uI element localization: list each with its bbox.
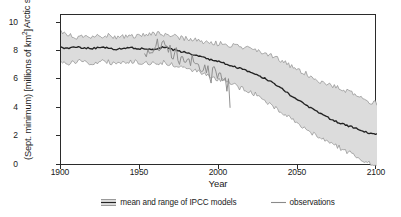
y-tick-label-10: 10	[0, 18, 18, 27]
y-axis-label-superscript: 2	[21, 32, 28, 35]
legend-entry-observations: observations	[271, 198, 335, 207]
y-tick-label-2: 2	[0, 131, 18, 140]
figure-arctic-sea-ice-extent: (Sept. minimum) [millions of km2] Arctic…	[0, 0, 401, 217]
chart-legend: mean and range of IPCC models observatio…	[60, 194, 376, 210]
x-tick-label-1950: 1950	[117, 168, 161, 177]
y-axis-label-line2: (Sept. minimum) [millions of km2]	[21, 29, 33, 160]
plot-area	[60, 14, 376, 165]
hatched-band-swatch-icon	[101, 199, 116, 206]
x-tick-label-2100: 2100	[354, 168, 398, 177]
y-tick-label-0: 0	[0, 160, 18, 169]
x-axis-label: Year	[60, 178, 376, 189]
y-tick-label-6: 6	[0, 74, 18, 83]
plot-canvas	[61, 15, 377, 166]
legend-label-ipcc-models: mean and range of IPCC models	[120, 198, 236, 207]
ipcc-model-range-band	[61, 30, 377, 166]
legend-entry-ipcc-models: mean and range of IPCC models	[101, 198, 236, 207]
legend-label-observations: observations	[290, 198, 335, 207]
y-axis-label-line1: Arctic sea ice extent	[22, 0, 32, 28]
x-tick-label-2000: 2000	[196, 168, 240, 177]
y-tick-label-8: 8	[0, 46, 18, 55]
line-swatch-icon	[271, 199, 286, 206]
x-tick-label-2050: 2050	[275, 168, 319, 177]
x-tick-label-1900: 1900	[38, 168, 82, 177]
y-tick-label-4: 4	[0, 103, 18, 112]
